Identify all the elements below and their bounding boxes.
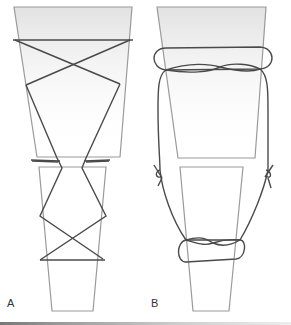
bone-proximal-b [157,7,266,158]
panel-label-a: A [7,297,14,309]
panel-a [13,7,133,311]
diagram-canvas [0,0,291,325]
panel-b [154,7,273,311]
panel-label-b: B [151,297,158,309]
